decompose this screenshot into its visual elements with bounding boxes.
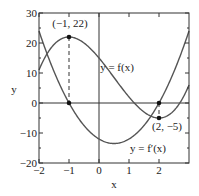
x-axis-label: x	[111, 178, 117, 190]
annotation-min-point: (2, −5)	[152, 120, 182, 133]
x-tick-label-3: 1	[126, 164, 132, 176]
x-tick-label-2: 0	[96, 164, 102, 176]
marked-point-2	[157, 101, 162, 106]
series-line-0	[39, 37, 189, 118]
y-axis-label: y	[11, 83, 17, 95]
x-tick-label-4: 2	[156, 164, 162, 176]
y-tick-label-1: −10	[20, 127, 38, 139]
x-tick-label-1: −1	[63, 164, 75, 176]
y-tick-label-4: 20	[26, 37, 38, 49]
y-tick-label-0: −20	[20, 157, 38, 169]
annotation-max-point: (−1, 22)	[52, 17, 88, 30]
label-f: y = f(x)	[100, 61, 134, 74]
marked-point-0	[67, 35, 72, 40]
y-tick-label-3: 10	[26, 67, 38, 79]
label-fprime: y = f′(x)	[130, 142, 166, 155]
chart: −2−1012−20−100102030 x y (−1, 22) (2, −5…	[0, 0, 199, 196]
marked-point-1	[67, 101, 72, 106]
y-tick-label-2: 0	[32, 97, 38, 109]
y-tick-label-5: 30	[26, 7, 38, 19]
